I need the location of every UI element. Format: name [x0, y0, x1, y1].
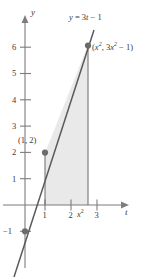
- equation-eq: = 3: [73, 12, 86, 22]
- y-tick-label-1: 1: [12, 175, 16, 184]
- y-tick-label-2: 2: [12, 148, 16, 157]
- lower-point-label: (1, 2): [18, 136, 36, 145]
- y-tick-label-6: 6: [12, 43, 16, 52]
- point-marker-upper: [85, 42, 91, 48]
- y-axis-label: y: [31, 8, 35, 17]
- x-axis-label: t: [125, 208, 128, 217]
- x-tick-label-3: 3: [95, 211, 99, 220]
- equation-rest: − 1: [88, 12, 101, 22]
- point-marker-lower: [42, 150, 48, 156]
- y-tick-label-3: 3: [12, 122, 16, 131]
- x-tick-label-1: 1: [43, 211, 47, 220]
- x-sq-exponent: 2: [81, 208, 84, 214]
- y-tick-label-4: 4: [12, 96, 16, 105]
- y-tick-label-negative-1: −1: [3, 227, 12, 236]
- upper-point-label: (x2, 3x2 − 1): [92, 41, 133, 51]
- equation-label: y = 3t − 1: [69, 13, 102, 22]
- y-axis-arrowhead: [22, 15, 29, 23]
- upper-lbl-p2: , 3: [102, 42, 111, 52]
- point-marker-intercept: [22, 228, 28, 234]
- y-tick-label-5: 5: [12, 69, 16, 78]
- graph-figure: y t y = 3t − 1 (x2, 3x2 − 1) (1, 2) 6 5 …: [0, 0, 141, 277]
- upper-lbl-p3: − 1): [117, 42, 133, 52]
- x-tick-label-x-squared: x2: [77, 208, 84, 218]
- x-tick-label-2: 2: [69, 211, 73, 220]
